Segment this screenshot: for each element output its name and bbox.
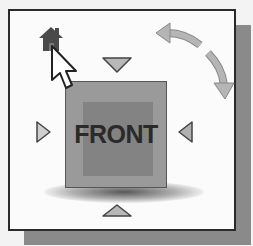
rotate-arrows-icon[interactable] <box>150 15 240 105</box>
view-top-triangle-icon[interactable] <box>101 56 133 74</box>
view-bottom-triangle-icon[interactable] <box>101 203 133 219</box>
view-right-triangle-icon[interactable] <box>176 120 194 144</box>
cube-face-label: FRONT <box>66 120 166 149</box>
view-left-triangle-icon[interactable] <box>35 120 53 144</box>
viewcube-panel: FRONT <box>8 9 236 231</box>
mouse-cursor-icon <box>50 44 80 92</box>
